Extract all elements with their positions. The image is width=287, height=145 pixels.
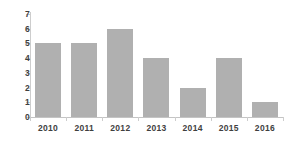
bar — [71, 43, 97, 117]
y-axis-tick-label: 7 — [8, 10, 30, 19]
bar-slot — [175, 14, 211, 117]
bar-slot — [211, 14, 247, 117]
x-axis-tick-mark — [138, 117, 139, 121]
x-axis-tick-label: 2012 — [102, 124, 138, 133]
x-axis-tick-label: 2013 — [138, 124, 174, 133]
bar — [216, 58, 242, 117]
bar — [180, 88, 206, 117]
bar-slot — [66, 14, 102, 117]
x-axis-tick-label: 2016 — [247, 124, 283, 133]
x-axis-tick-mark — [283, 117, 284, 121]
y-axis-tick-label: 3 — [8, 69, 30, 78]
x-axis-tick-label: 2014 — [175, 124, 211, 133]
bar-slot — [102, 14, 138, 117]
x-axis-tick-mark — [102, 117, 103, 121]
x-axis-tick-mark — [30, 117, 31, 121]
bar — [35, 43, 61, 117]
bar-slot — [138, 14, 174, 117]
y-axis-tick-label: 5 — [8, 39, 30, 48]
bar-slot — [30, 14, 66, 117]
y-axis-tick-label: 6 — [8, 25, 30, 34]
x-axis-tick-label: 2010 — [30, 124, 66, 133]
y-axis-tick-label: 0 — [8, 113, 30, 122]
x-axis-tick-mark — [211, 117, 212, 121]
x-axis-tick-mark — [175, 117, 176, 121]
bar-chart: 01234567 2010201120122013201420152016 — [0, 0, 287, 145]
bar-slot — [247, 14, 283, 117]
x-axis-tick-label: 2015 — [211, 124, 247, 133]
y-axis: 01234567 — [0, 0, 30, 145]
bars-layer: 2010201120122013201420152016 — [30, 0, 283, 145]
y-axis-tick-label: 4 — [8, 54, 30, 63]
y-axis-tick-label: 1 — [8, 98, 30, 107]
bar — [107, 29, 133, 117]
x-axis-tick-label: 2011 — [66, 124, 102, 133]
bar — [252, 102, 278, 117]
y-axis-tick-label: 2 — [8, 84, 30, 93]
x-axis-tick-mark — [66, 117, 67, 121]
x-axis-tick-mark — [247, 117, 248, 121]
bar — [143, 58, 169, 117]
